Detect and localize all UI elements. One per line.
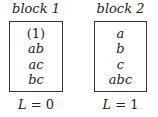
block-2-level-var: L (102, 97, 111, 112)
block-1-item: bc (28, 72, 44, 87)
block-2-item: a (117, 26, 125, 41)
block-1-item: (1) (27, 26, 45, 41)
block-1-level: L = 0 (9, 97, 63, 112)
block-1-item: ab (28, 41, 44, 56)
block-2-item: b (116, 41, 124, 56)
block-2-item: abc (109, 72, 132, 87)
block-1-level-var: L (18, 97, 27, 112)
block-1-title: block 1 (9, 1, 63, 16)
block-2-item: c (117, 57, 124, 72)
block-1-level-value: = 0 (27, 97, 54, 112)
block-2-level: L = 1 (94, 97, 147, 112)
block-2-box: a b c abc (94, 21, 147, 92)
block-1-box: (1) ab ac bc (9, 21, 63, 92)
block-1-item: ac (28, 57, 43, 72)
block-2-title: block 2 (94, 1, 147, 16)
block-2-level-value: = 1 (111, 97, 138, 112)
